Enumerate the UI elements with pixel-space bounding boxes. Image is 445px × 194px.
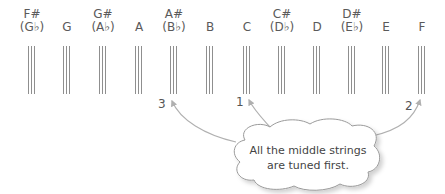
- arrow-to-f: [372, 100, 420, 136]
- arrow-to-c: [249, 100, 270, 127]
- callout-line-1: All the middle strings: [240, 143, 376, 158]
- tuning-order-2: 2: [405, 99, 413, 113]
- tuning-order-1: 1: [236, 95, 244, 109]
- callout-line-2: are tuned first.: [240, 158, 376, 173]
- callout-text: All the middle strings are tuned first.: [240, 143, 376, 173]
- tuning-order-3: 3: [158, 97, 166, 111]
- arrow-to-asharp: [172, 101, 236, 142]
- callout-graphics: [0, 0, 445, 194]
